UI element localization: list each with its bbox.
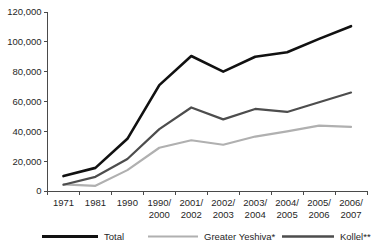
chart-legend: TotalGreater Yeshiva*Kollel**: [42, 231, 371, 242]
x-tick-label: 2002/2003: [211, 197, 235, 220]
y-tick-label: 0: [36, 185, 41, 196]
chart-container: 120,000100,00080,00060,00040,00020,0000 …: [0, 0, 373, 246]
y-tick-label: 100,000: [7, 36, 41, 47]
x-tick-label: 1981: [85, 197, 106, 208]
x-tick-label: 2006/2007: [339, 197, 363, 220]
x-tick-label: 1990: [117, 197, 138, 208]
y-tick-label: 120,000: [7, 6, 41, 17]
series-line-total: [63, 26, 351, 176]
series-lines: [63, 26, 351, 186]
y-tick-label: 20,000: [12, 156, 41, 167]
y-tick-label: 60,000: [12, 96, 41, 107]
x-tick-label: 1990/2000: [147, 197, 171, 220]
series-line-greater-yeshiva: [63, 126, 351, 186]
x-tick-label: 2004/2005: [275, 197, 299, 220]
line-chart: 120,000100,00080,00060,00040,00020,0000 …: [0, 0, 373, 246]
legend-label-kollel: Kollel**: [340, 231, 371, 242]
y-axis-tick-labels: 120,000100,00080,00060,00040,00020,0000: [7, 6, 41, 196]
x-tick-label: 2001/2002: [179, 197, 203, 220]
x-axis-tick-marks: [48, 191, 368, 195]
x-tick-label: 1971: [53, 197, 74, 208]
series-line-kollel: [63, 93, 351, 185]
legend-label-total: Total: [104, 231, 124, 242]
x-tick-label: 2005/2006: [307, 197, 331, 220]
y-axis-tick-marks: [44, 12, 48, 191]
x-axis-tick-labels: 1971198119901990/20002001/20022002/20032…: [53, 197, 363, 220]
x-tick-label: 2003/2004: [243, 197, 267, 220]
y-tick-label: 40,000: [12, 126, 41, 137]
legend-label-greater-yeshiva: Greater Yeshiva*: [204, 231, 276, 242]
y-tick-label: 80,000: [12, 66, 41, 77]
